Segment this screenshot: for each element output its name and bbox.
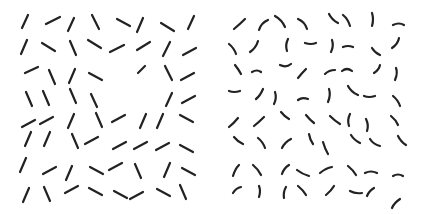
curved-segment — [298, 19, 307, 29]
curved-segment — [398, 136, 406, 145]
curved-segment — [330, 116, 340, 124]
curved-segment — [286, 39, 288, 51]
curved-segment — [297, 170, 309, 176]
curved-segment — [326, 186, 334, 195]
curved-segment — [282, 139, 291, 148]
curved-segment — [367, 188, 374, 196]
curved-segment — [229, 91, 240, 92]
stimulus-canvas — [0, 0, 424, 214]
curved-segment — [350, 191, 362, 193]
curved-segment — [328, 89, 330, 102]
curved-segment — [233, 165, 239, 176]
curved-segment — [325, 70, 335, 74]
curved-segment — [229, 44, 236, 54]
curved-segment — [298, 186, 306, 195]
curved-segment — [366, 119, 368, 131]
curved-segment — [348, 166, 356, 175]
curved-segment — [259, 20, 268, 30]
curved-segment — [233, 187, 241, 193]
curved-segment — [372, 13, 373, 26]
curved-segment — [275, 16, 285, 27]
curved-segment — [234, 137, 243, 144]
curved-segment — [331, 40, 333, 52]
curved-segment — [348, 114, 350, 126]
curved-segment — [372, 48, 380, 55]
curved-segment — [391, 116, 398, 125]
curved-segment — [393, 96, 400, 106]
curved-segment — [258, 138, 265, 148]
curved-segment — [280, 64, 291, 66]
curved-segment — [250, 41, 258, 52]
curved-segment — [395, 68, 397, 80]
curved-segment — [343, 46, 353, 47]
curved-segment — [253, 165, 261, 175]
curved-segment — [343, 15, 350, 26]
curved-segment — [235, 65, 241, 74]
curved-segment — [306, 115, 314, 123]
curved-segment — [393, 24, 404, 26]
curved-segments-panel — [0, 0, 424, 214]
curved-segment — [370, 139, 380, 146]
curved-segment — [229, 118, 238, 127]
curved-segment — [329, 14, 338, 23]
curved-segment — [351, 135, 360, 143]
curved-segment — [365, 172, 377, 174]
curved-segment — [392, 199, 400, 208]
curved-segment — [274, 92, 276, 104]
curved-segment — [323, 142, 328, 154]
curved-segment — [298, 98, 308, 100]
curved-segment — [374, 65, 380, 73]
curved-segment — [305, 43, 316, 44]
curved-segment — [281, 112, 289, 119]
curved-segment — [234, 19, 245, 29]
curved-segment — [392, 38, 399, 48]
curved-segment — [320, 167, 332, 173]
curved-segment — [298, 69, 306, 78]
curved-segment — [364, 96, 375, 97]
curved-segment — [259, 186, 260, 197]
curved-segment — [254, 117, 264, 126]
curved-segment — [342, 69, 352, 71]
curved-segment — [393, 175, 403, 177]
curved-segment — [282, 165, 289, 174]
curved-segment — [348, 86, 358, 95]
curved-segment — [309, 134, 313, 144]
curved-segment — [284, 187, 286, 198]
curved-segment — [252, 71, 261, 73]
curved-segment — [256, 89, 263, 99]
